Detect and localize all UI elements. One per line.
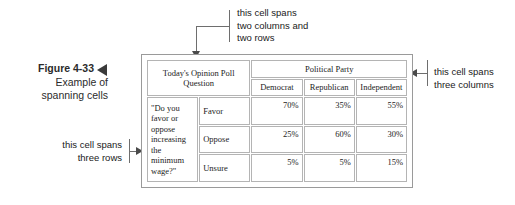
column-header-republican: Republican xyxy=(304,79,355,97)
question-text-cell: "Do you favor or oppose increasing the m… xyxy=(147,97,198,182)
annotation-left-line-2: three rows xyxy=(36,152,122,165)
figure-caption-line-2: spanning cells xyxy=(0,89,112,103)
row-label-oppose: Oppose xyxy=(199,126,250,154)
annotation-two-columns-two-rows: this cell spans two columns and two rows xyxy=(237,7,308,45)
annotation-right-line-1: this cell spans xyxy=(434,66,494,79)
column-header-democrat: Democrat xyxy=(251,79,302,97)
table-row: Today's Opinion Poll Question Political … xyxy=(147,60,407,78)
figure-number: Figure 4-33 xyxy=(0,62,112,76)
figure-caption-line-1: Example of xyxy=(0,76,112,90)
annotation-three-rows: this cell spans three rows xyxy=(36,139,122,164)
annotation-top-line-3: two rows xyxy=(237,32,308,45)
cell-unsure-democrat: 5% xyxy=(251,154,302,182)
row-label-favor: Favor xyxy=(199,97,250,125)
annotation-top-line-2: two columns and xyxy=(237,20,308,33)
annotation-top-line-1: this cell spans xyxy=(237,7,308,20)
figure-caption: Figure 4-33 Example of spanning cells xyxy=(0,62,112,103)
table-row: "Do you favor or oppose increasing the m… xyxy=(147,97,407,125)
cell-unsure-republican: 5% xyxy=(304,154,355,182)
cell-oppose-republican: 60% xyxy=(304,126,355,154)
annotation-top-connector-vertical xyxy=(196,26,197,54)
question-header-cell: Today's Opinion Poll Question xyxy=(147,60,250,96)
political-party-header-cell: Political Party xyxy=(251,60,407,78)
cell-favor-republican: 35% xyxy=(304,97,355,125)
opinion-poll-table: Today's Opinion Poll Question Political … xyxy=(146,59,408,183)
column-header-independent: Independent xyxy=(356,79,407,97)
annotation-three-columns: this cell spans three columns xyxy=(434,66,494,91)
cell-unsure-independent: 15% xyxy=(356,154,407,182)
annotation-left-line-1: this cell spans xyxy=(36,139,122,152)
left-triangle-icon xyxy=(97,64,107,76)
cell-oppose-independent: 30% xyxy=(356,126,407,154)
annotation-right-line-2: three columns xyxy=(434,79,494,92)
poll-table-frame: Today's Opinion Poll Question Political … xyxy=(141,54,413,188)
annotation-top-connector-horizontal xyxy=(196,26,230,27)
cell-favor-independent: 55% xyxy=(356,97,407,125)
row-label-unsure: Unsure xyxy=(199,154,250,182)
cell-oppose-democrat: 25% xyxy=(251,126,302,154)
cell-favor-democrat: 70% xyxy=(251,97,302,125)
